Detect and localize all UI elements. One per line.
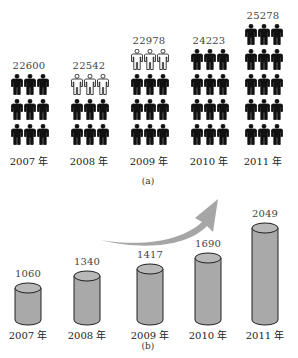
- cylinder-value-label: 1417: [125, 249, 175, 260]
- cylinder-bar: [74, 271, 100, 325]
- cylinder-bar: [15, 283, 41, 325]
- year-label: 2008 年: [59, 327, 115, 342]
- year-label: 2010 年: [180, 327, 236, 342]
- cylinder-value-label: 1340: [62, 256, 112, 267]
- cylinder-bar: [137, 264, 163, 325]
- cylinder-chart: [0, 0, 298, 358]
- cylinder-value-label: 1060: [3, 268, 53, 279]
- cylinder-bar: [252, 223, 278, 325]
- year-label: 2011 年: [237, 327, 293, 342]
- cylinder-value-label: 1690: [183, 238, 233, 249]
- figure-b-caption: (b): [128, 341, 168, 351]
- year-label: 2007 年: [0, 327, 56, 342]
- cylinder-bar: [195, 253, 221, 325]
- cylinder-value-label: 2049: [240, 208, 290, 219]
- year-label: 2009 年: [122, 327, 178, 342]
